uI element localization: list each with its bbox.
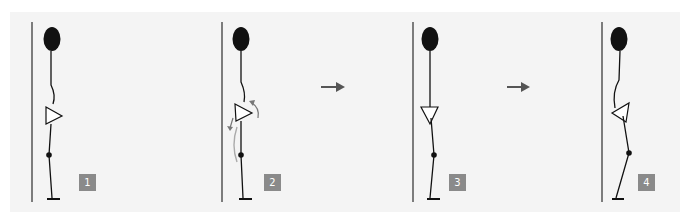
spine [614,51,620,108]
leg [430,118,434,198]
knee-joint [238,152,244,158]
pelvis-triangle [421,107,438,124]
motion-arrow-down [230,118,233,128]
panel-3 [413,22,440,202]
head [233,27,250,51]
panel-2 [222,22,258,202]
step-badge-3: 3 [449,174,466,191]
knee-joint [626,150,632,156]
arrowhead-down [227,126,233,131]
step-badge-2: 2 [264,174,281,191]
posture-diagram [0,0,691,218]
right-arrow-2 [507,82,530,92]
knee-joint [46,152,52,158]
pelvis-triangle [235,104,252,121]
motion-arrow-hamstring [234,127,237,162]
leg [241,121,243,198]
step-badge-1: 1 [79,174,96,191]
head [44,27,61,51]
step-badge-4: 4 [638,174,655,191]
leg [49,124,52,198]
spine [241,51,245,102]
leg [616,116,629,198]
head [422,27,439,51]
panel-1 [32,22,62,202]
spine [51,51,54,104]
head [611,27,628,51]
pelvis-triangle [46,107,62,124]
knee-joint [431,152,437,158]
panel-4 [602,22,632,202]
right-arrow-1 [321,82,345,92]
